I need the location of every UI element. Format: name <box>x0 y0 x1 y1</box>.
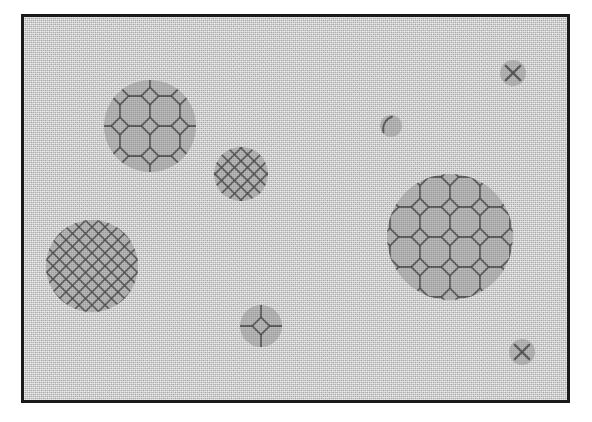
particle-group <box>24 17 567 400</box>
figure-root <box>0 0 592 422</box>
particle-mid-upper <box>45 121 437 227</box>
particle-top-right <box>500 60 526 86</box>
particle-bottom-mid <box>162 227 372 400</box>
figure-frame <box>21 14 570 403</box>
particle-svg <box>24 17 567 400</box>
particle-lattice <box>45 121 437 227</box>
particle-bottom-right <box>509 339 535 365</box>
particle-body <box>104 80 196 172</box>
particle-layer <box>24 17 567 400</box>
particle-bottom-left <box>24 194 346 338</box>
particle-upper-mid-right <box>380 115 402 137</box>
